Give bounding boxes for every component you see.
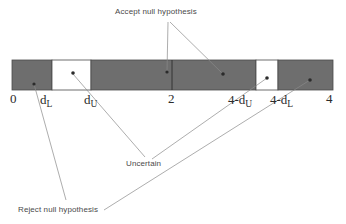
callout-uncertain: Uncertain — [126, 160, 161, 168]
subscript-l: L — [47, 99, 53, 109]
tick-label-dl: dL — [40, 93, 52, 107]
subscript-u: U — [91, 99, 98, 109]
segment-uncertain-lower — [52, 60, 91, 90]
subscript-u: U — [245, 99, 252, 109]
dot-reject-lower — [32, 82, 35, 85]
durbin-watson-decision-diagram — [0, 0, 346, 224]
segment-reject-negative-autocorrelation — [278, 60, 333, 90]
decision-bar — [12, 60, 333, 90]
dot-uncertain-upper — [265, 76, 269, 80]
tick-label-du: dU — [84, 93, 97, 107]
segment-reject-positive-autocorrelation — [12, 60, 52, 90]
dot-accept-right — [221, 72, 225, 76]
segment-uncertain-upper — [256, 60, 278, 90]
segment-accept-null — [91, 60, 256, 90]
tick-label-0: 0 — [10, 92, 17, 105]
tick-label-4-minus-du: 4-dU — [228, 93, 252, 107]
dot-accept-left — [165, 70, 168, 73]
dot-reject-upper — [308, 78, 312, 82]
tick-label-2: 2 — [168, 92, 175, 105]
callout-reject-null-hypothesis: Reject null hypothesis — [18, 206, 98, 214]
leader-lines — [34, 22, 310, 210]
tick-label-4-minus-dl: 4-dL — [270, 93, 293, 107]
dot-uncertain-lower — [71, 71, 75, 75]
callout-accept-null-hypothesis: Accept null hypothesis — [115, 8, 197, 16]
subscript-l: L — [287, 99, 293, 109]
tick-label-4: 4 — [326, 92, 333, 105]
